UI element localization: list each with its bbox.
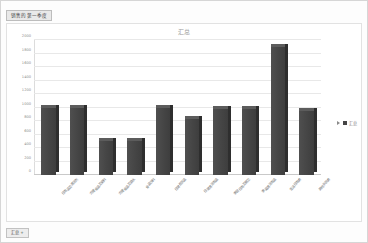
bar-face xyxy=(41,108,55,176)
bar[interactable] xyxy=(70,108,84,176)
bar-series xyxy=(34,40,321,175)
bar-side xyxy=(314,108,317,172)
bar-top xyxy=(99,138,113,141)
x-axis-tick-label: 日用品及清洁剂 xyxy=(61,178,79,196)
x-axis-tick-label: 家庭清洁用品 xyxy=(261,178,277,194)
chart-legend[interactable]: 汇总 xyxy=(337,120,357,126)
x-axis-tick-label: 方便食品及酒水 xyxy=(118,178,136,196)
bar-side xyxy=(56,105,59,173)
bar-top xyxy=(271,44,285,47)
bar[interactable] xyxy=(185,119,199,175)
bar-side xyxy=(142,138,145,172)
y-axis-tick-label: 200 xyxy=(24,156,31,160)
x-axis-tick-label: 食品饮料 xyxy=(144,178,155,189)
chart-title: 汇总 xyxy=(7,27,361,36)
y-axis-tick-label: 1600 xyxy=(22,61,31,65)
bar-slot xyxy=(271,40,285,175)
bar-side xyxy=(228,106,231,172)
bar[interactable] xyxy=(271,47,285,175)
bar-side xyxy=(170,105,173,173)
bar-slot xyxy=(213,40,227,175)
bar-face xyxy=(70,108,84,176)
y-axis-tick-label: 600 xyxy=(24,129,31,133)
bar-slot xyxy=(70,40,84,175)
legend-swatch xyxy=(343,121,347,125)
bar-slot xyxy=(185,40,199,175)
bar-face xyxy=(185,119,199,175)
bar[interactable] xyxy=(299,111,313,175)
bar[interactable] xyxy=(156,108,170,176)
bar-side xyxy=(285,44,288,172)
bar-top xyxy=(299,108,313,111)
bar[interactable] xyxy=(213,109,227,175)
y-axis-tick-label: 1000 xyxy=(22,102,31,106)
bar[interactable] xyxy=(99,141,113,175)
bar[interactable] xyxy=(242,109,256,175)
x-axis-tick-label: 其他杂货类 xyxy=(317,178,330,191)
bar-side xyxy=(199,116,202,172)
bar-face xyxy=(242,109,256,175)
y-axis-tick-label: 400 xyxy=(24,142,31,146)
x-axis-tick-label: 生活日用类 xyxy=(289,178,302,191)
bar-slot xyxy=(156,40,170,175)
bar-top xyxy=(41,105,55,108)
y-axis-tick-label: 0 xyxy=(29,169,31,173)
x-axis-tick-label: 日常百货品 xyxy=(174,178,187,191)
y-axis-tick-label: 1400 xyxy=(22,75,31,79)
bar-face xyxy=(213,109,227,175)
bar-top xyxy=(156,105,170,108)
bar-side xyxy=(256,106,259,172)
plot-area: 0200400600800100012001400160018002000 日用… xyxy=(34,40,321,175)
bar-slot xyxy=(99,40,113,175)
bar-face xyxy=(156,108,170,176)
bar[interactable] xyxy=(41,108,55,176)
legend-label: 汇总 xyxy=(349,120,357,126)
y-axis-tick-label: 2000 xyxy=(22,34,31,38)
bar-side xyxy=(113,138,116,172)
bar-face xyxy=(271,47,285,175)
bar-slot xyxy=(127,40,141,175)
x-axis-tick-label: 家居日用及厨卫 xyxy=(233,178,251,196)
bar-slot xyxy=(41,40,55,175)
bar[interactable] xyxy=(127,141,141,175)
bar-side xyxy=(84,105,87,173)
y-axis-tick-label: 1200 xyxy=(22,88,31,92)
bar-face xyxy=(99,141,113,175)
bar-top xyxy=(242,106,256,109)
bar-face xyxy=(299,111,313,175)
bar-top xyxy=(213,106,227,109)
bar-top xyxy=(185,116,199,119)
x-axis-tick-label: 日常清洁用品 xyxy=(203,178,219,194)
bar-face xyxy=(127,141,141,175)
bar-top xyxy=(127,138,141,141)
legend-arrow-icon xyxy=(337,121,340,125)
bar-slot xyxy=(299,40,313,175)
bar-top xyxy=(70,105,84,108)
sheet-tab[interactable]: 汇总 + xyxy=(6,228,29,238)
y-axis-tick-label: 800 xyxy=(24,115,31,119)
chart-container[interactable]: 汇总 0200400600800100012001400160018002000… xyxy=(6,23,362,222)
y-axis-tick-label: 1800 xyxy=(22,48,31,52)
spreadsheet-chart-window: 销售的第一季度 汇总 02004006008001000120014001600… xyxy=(0,0,368,243)
x-axis-tick-label: 方便食品及调料 xyxy=(90,178,108,196)
bar-slot xyxy=(242,40,256,175)
name-box[interactable]: 销售的第一季度 xyxy=(6,10,52,21)
